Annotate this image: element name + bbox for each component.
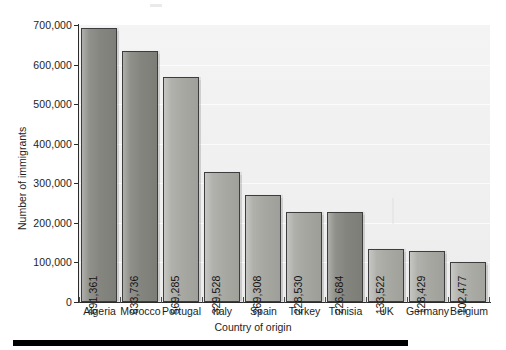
bar-algeria[interactable]: 691,361	[81, 28, 117, 302]
ytick-label: 0	[66, 296, 72, 308]
page-rule	[13, 340, 408, 346]
x-axis-title: Country of origin	[0, 321, 506, 333]
xcat-italy: Italy	[202, 305, 243, 317]
page-speck	[392, 198, 394, 224]
ytick-label: 700,000	[33, 19, 72, 31]
xtick	[243, 297, 244, 303]
xtick	[325, 297, 326, 303]
xcat-tunisia: Tunisia	[325, 305, 366, 317]
ytick-200000	[74, 223, 79, 224]
xtick	[366, 297, 367, 303]
bar-uk[interactable]: 133,522	[368, 249, 404, 302]
ytick-700000	[74, 25, 79, 26]
bar-tunisia[interactable]: 226,684	[327, 212, 363, 302]
xcat-uk: UK	[366, 305, 407, 317]
bar-portugal[interactable]: 569,285	[163, 77, 199, 302]
y-axis-title-wrap: Number of immigrants	[0, 100, 138, 118]
ytick-label: 100,000	[33, 256, 72, 268]
ytick-label: 400,000	[33, 138, 72, 150]
bar-germany[interactable]: 128,429	[409, 251, 445, 302]
bar-italy[interactable]: 329,528	[204, 172, 240, 302]
xcat-portugal: Portugal	[161, 305, 202, 317]
bar-gloss	[82, 29, 116, 301]
ytick-label: 200,000	[33, 217, 72, 229]
bar-turkey[interactable]: 228,530	[286, 212, 322, 302]
xtick	[489, 297, 490, 303]
y-axis-title: Number of immigrants	[16, 127, 28, 230]
ytick-400000	[74, 144, 79, 145]
bar-spain[interactable]: 269,308	[245, 195, 281, 302]
xcat-belgium: Belgium	[447, 305, 491, 317]
xtick	[407, 297, 408, 303]
ytick-300000	[74, 183, 79, 184]
y-axis-tick-labels: 700,000 600,000 500,000 400,000 300,000 …	[0, 0, 72, 350]
xcat-germany: Germany	[405, 305, 450, 317]
bar-gloss	[164, 78, 198, 301]
ytick-600000	[74, 65, 79, 66]
page-speck	[150, 4, 162, 7]
xcat-algeria: Algeria	[79, 305, 120, 317]
bar-belgium[interactable]: 102,477	[450, 262, 486, 303]
plot-area: 691,361 633,736 569,285 329,528 269,308 …	[79, 25, 490, 302]
ytick-label: 600,000	[33, 59, 72, 71]
xtick	[120, 297, 121, 303]
xcat-turkey: Turkey	[284, 305, 325, 317]
ytick-label: 300,000	[33, 177, 72, 189]
bar-morocco[interactable]: 633,736	[122, 51, 158, 302]
xtick	[202, 297, 203, 303]
xtick	[448, 297, 449, 303]
xcat-morocco: Morocco	[120, 305, 161, 317]
ytick-100000	[74, 262, 79, 263]
y-axis-line	[78, 24, 79, 303]
xcat-spain: Spain	[243, 305, 284, 317]
xtick	[79, 297, 80, 303]
xtick	[284, 297, 285, 303]
bar-chart-figure: 691,361 633,736 569,285 329,528 269,308 …	[0, 0, 506, 350]
xtick	[161, 297, 162, 303]
bar-gloss	[123, 52, 157, 301]
